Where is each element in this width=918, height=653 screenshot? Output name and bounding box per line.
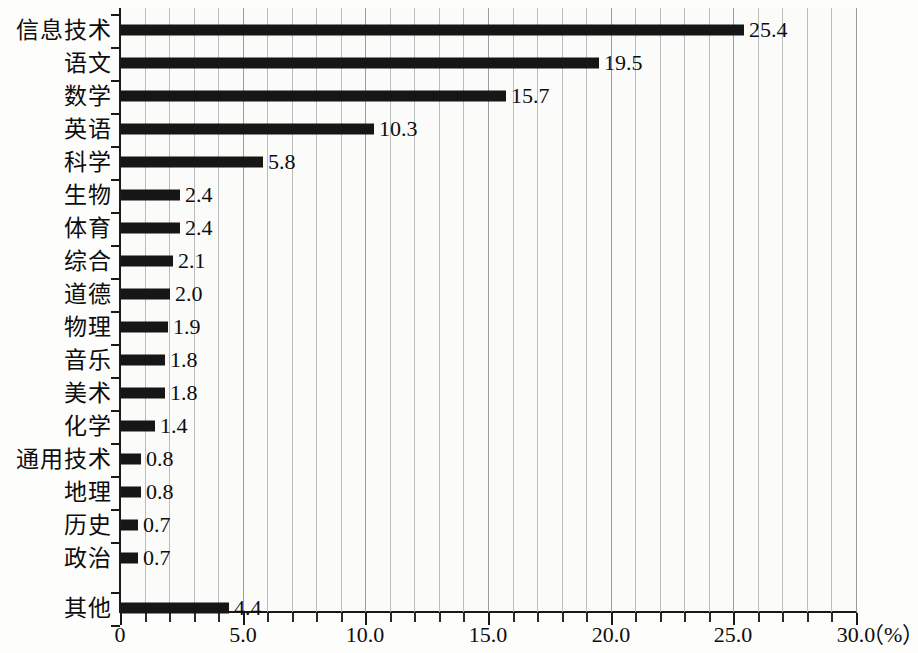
bar [121,553,138,564]
bar [121,520,138,531]
x-axis-tick [709,613,711,622]
category-label: 地理 [64,481,112,504]
y-axis-tick [111,377,120,379]
bar [121,289,170,300]
gridline [586,8,587,612]
bar-value-label: 15.7 [511,85,550,107]
bar [121,157,263,168]
x-axis-tick [390,613,392,622]
y-axis-tick [111,509,120,511]
y-axis-tick [111,146,120,148]
x-axis-tick [463,613,465,622]
bar [121,58,599,69]
x-axis-tick [537,613,539,622]
x-axis-tick [660,613,662,622]
x-axis-tick [758,613,760,622]
bar-value-label: 10.3 [379,118,418,140]
bar [121,454,141,465]
category-label: 体育 [64,217,112,240]
x-axis-tick [414,613,416,622]
category-label: 美术 [64,382,112,405]
category-label: 数学 [64,85,112,108]
x-axis-tick [513,613,515,622]
gridline [611,8,612,612]
x-axis-tick [316,613,318,622]
bar [121,223,180,234]
category-label: 科学 [64,151,112,174]
x-axis-tick [341,613,343,622]
y-axis-tick [111,443,120,445]
category-label: 物理 [64,316,112,339]
bar-value-label: 25.4 [749,19,788,41]
y-axis-tick [111,245,120,247]
axis-unit-label: （%） [862,624,918,646]
bar-value-label: 0.7 [143,547,171,569]
bar-value-label: 4.4 [234,597,262,619]
x-axis-tick-label: 0 [115,624,126,646]
bar [121,190,180,201]
x-axis-tick-label: 15.0 [469,624,508,646]
bar [121,355,165,366]
gridline [831,8,832,612]
y-axis-tick [111,542,120,544]
category-label: 语文 [64,52,112,75]
y-axis-tick [111,592,120,594]
bar [121,25,744,36]
category-label: 信息技术 [16,19,112,42]
category-label: 综合 [64,250,112,273]
x-axis-tick [267,613,269,622]
bar-chart: 信息技术25.4语文19.5数学15.7英语10.3科学5.8生物2.4体育2.… [0,0,918,653]
bar [121,256,173,267]
bar-value-label: 0.8 [146,448,174,470]
y-axis-tick [111,80,120,82]
category-label: 通用技术 [16,448,112,471]
bar-value-label: 2.1 [178,250,206,272]
bar-value-label: 1.4 [160,415,188,437]
category-label: 政治 [64,547,112,570]
gridline [807,8,808,612]
x-axis-tick [684,613,686,622]
bar [121,421,155,432]
y-axis-tick [111,47,120,49]
y-axis-tick [111,113,120,115]
x-axis-tick [169,613,171,622]
gridline [733,8,734,612]
x-axis-tick [439,613,441,622]
bar-value-label: 5.8 [268,151,296,173]
bar-value-label: 19.5 [604,52,643,74]
y-axis-tick [111,476,120,478]
category-label: 生物 [64,184,112,207]
category-label: 道德 [64,283,112,306]
x-axis-tick [586,613,588,622]
bar-value-label: 1.9 [173,316,201,338]
x-axis-tick [782,613,784,622]
gridline [758,8,759,612]
y-axis-tick [111,14,120,16]
x-axis-tick-label: 25.0 [714,624,753,646]
x-axis-tick-label: 10.0 [346,624,385,646]
x-axis-tick-label: 5.0 [229,624,257,646]
gridline [660,8,661,612]
gridline [856,8,857,612]
x-axis-tick [145,613,147,622]
gridline [562,8,563,612]
x-axis-tick [218,613,220,622]
gridline [782,8,783,612]
gridline [635,8,636,612]
y-axis-tick [111,278,120,280]
category-label: 其他 [64,597,112,620]
x-axis-tick-label: 20.0 [592,624,631,646]
x-axis-tick [292,613,294,622]
x-axis-tick [562,613,564,622]
bar [121,388,165,399]
y-axis-tick [111,344,120,346]
category-label: 化学 [64,415,112,438]
y-axis-tick [111,212,120,214]
bar-value-label: 2.4 [185,217,213,239]
bar-value-label: 0.8 [146,481,174,503]
bar-value-label: 0.7 [143,514,171,536]
bar [121,91,506,102]
bar-value-label: 2.4 [185,184,213,206]
bar [121,124,374,135]
gridline [684,8,685,612]
